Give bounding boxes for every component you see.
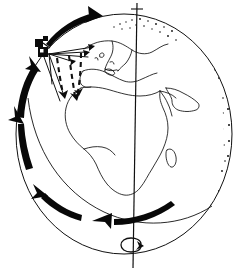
coast-ireland: [95, 58, 98, 60]
satellite: [35, 36, 95, 101]
coast-inland-sea: [110, 62, 114, 64]
coast-baltic: [118, 50, 132, 71]
coast-iberia: [80, 71, 91, 87]
coast-red-sea-west: [160, 91, 172, 116]
figure-root: Satellite in polar orbit around Earth Bl…: [0, 0, 245, 271]
satellite-panel-upper: [35, 39, 43, 47]
coast-northern-europe: [84, 41, 168, 54]
satellite-bus-window: [40, 49, 44, 53]
night-edge-band: [197, 33, 232, 236]
satellite-antenna-block: [43, 36, 48, 41]
orbit-arrow-top: [46, 6, 103, 47]
spin-arc: [121, 238, 141, 252]
night-side-stipple: [138, 32, 232, 236]
coast-madagascar: [166, 149, 176, 167]
coast-mediterranean-north: [83, 69, 157, 82]
rotation-axis-line: [133, 3, 137, 268]
beam-dashed-1: [57, 58, 63, 94]
coast-africa-outline: [65, 88, 168, 195]
rotation-axis: [131, 3, 143, 268]
earth-spin-arrow: [121, 238, 144, 252]
coastlines: [65, 41, 199, 195]
beam-solid-heads: [70, 44, 95, 66]
coast-north-africa: [81, 87, 160, 96]
orbit-arrow-upper-left: [17, 56, 41, 118]
satellite-beams-dashed: [57, 53, 81, 96]
coast-british-isles: [100, 53, 104, 57]
orbit-path: [8, 6, 175, 229]
satellite-body: [35, 36, 50, 57]
earth-globe: [16, 14, 232, 254]
north-limb-stipple: [113, 18, 177, 41]
orbit-arrow-lower-left: [31, 184, 82, 221]
satellite-orbit-diagram: Satellite in polar orbit around Earth Bl…: [0, 0, 245, 271]
beam-dashed-3: [78, 53, 81, 92]
coast-scandinavia-west: [105, 41, 113, 69]
coast-arabian-peninsula: [166, 88, 199, 112]
stipple-dots: [138, 32, 230, 232]
globe-limb: [16, 14, 232, 254]
